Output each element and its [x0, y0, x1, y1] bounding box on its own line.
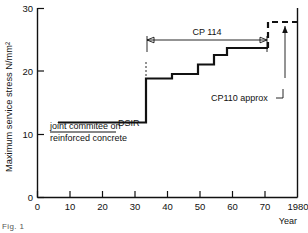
cp110-annotation: CP110 approx	[211, 89, 283, 103]
x-tick-label-20: 20	[97, 201, 108, 212]
y-axis-tick-labels: 30 20 10 0	[22, 3, 33, 203]
x-tick-label-1980: 1980	[287, 201, 308, 212]
x-tick-label-30: 30	[130, 201, 141, 212]
y-tick-label-0: 0	[28, 192, 33, 203]
x-axis-tick-labels: 0 10 20 30 40 50 60 70 1980	[35, 201, 308, 212]
cp110-leader-line	[276, 89, 283, 98]
cp114-label: CP 114	[192, 27, 221, 37]
x-tick-label-10: 10	[65, 201, 76, 212]
chart-figure: 30 20 10 0 0 10 20 30 40 50 60 70 1980	[0, 0, 308, 233]
y-axis-title: Maximum service stress N/mm²	[4, 42, 14, 172]
cp110-arrow-head-up	[282, 26, 288, 33]
joint-committee-label-line1: joint commitee on	[49, 121, 121, 131]
x-tick-label-50: 50	[195, 201, 206, 212]
x-tick-label-60: 60	[227, 201, 238, 212]
y-tick-label-30: 30	[22, 3, 33, 14]
cp110-label: CP110 approx	[211, 93, 268, 103]
y-axis-ticks	[38, 9, 45, 198]
chart-canvas: 30 20 10 0 0 10 20 30 40 50 60 70 1980	[0, 0, 308, 233]
x-tick-label-40: 40	[162, 201, 173, 212]
x-axis-title: Year	[279, 216, 297, 226]
dsir-label: DSIR	[118, 118, 140, 128]
figure-caption: Fig. 1	[2, 222, 24, 231]
y-tick-label-10: 10	[22, 129, 33, 140]
x-axis-ticks	[38, 191, 266, 198]
x-tick-label-0: 0	[35, 201, 40, 212]
series-step-dashed	[268, 22, 297, 48]
joint-committee-label-line2: reinforced concrete	[50, 133, 127, 143]
y-tick-label-20: 20	[22, 66, 33, 77]
x-tick-label-70: 70	[260, 201, 271, 212]
series-step-solid	[58, 48, 268, 123]
joint-committee-annotation: joint commitee on reinforced concrete	[49, 121, 127, 143]
cp110-rise-arrow	[282, 26, 288, 78]
